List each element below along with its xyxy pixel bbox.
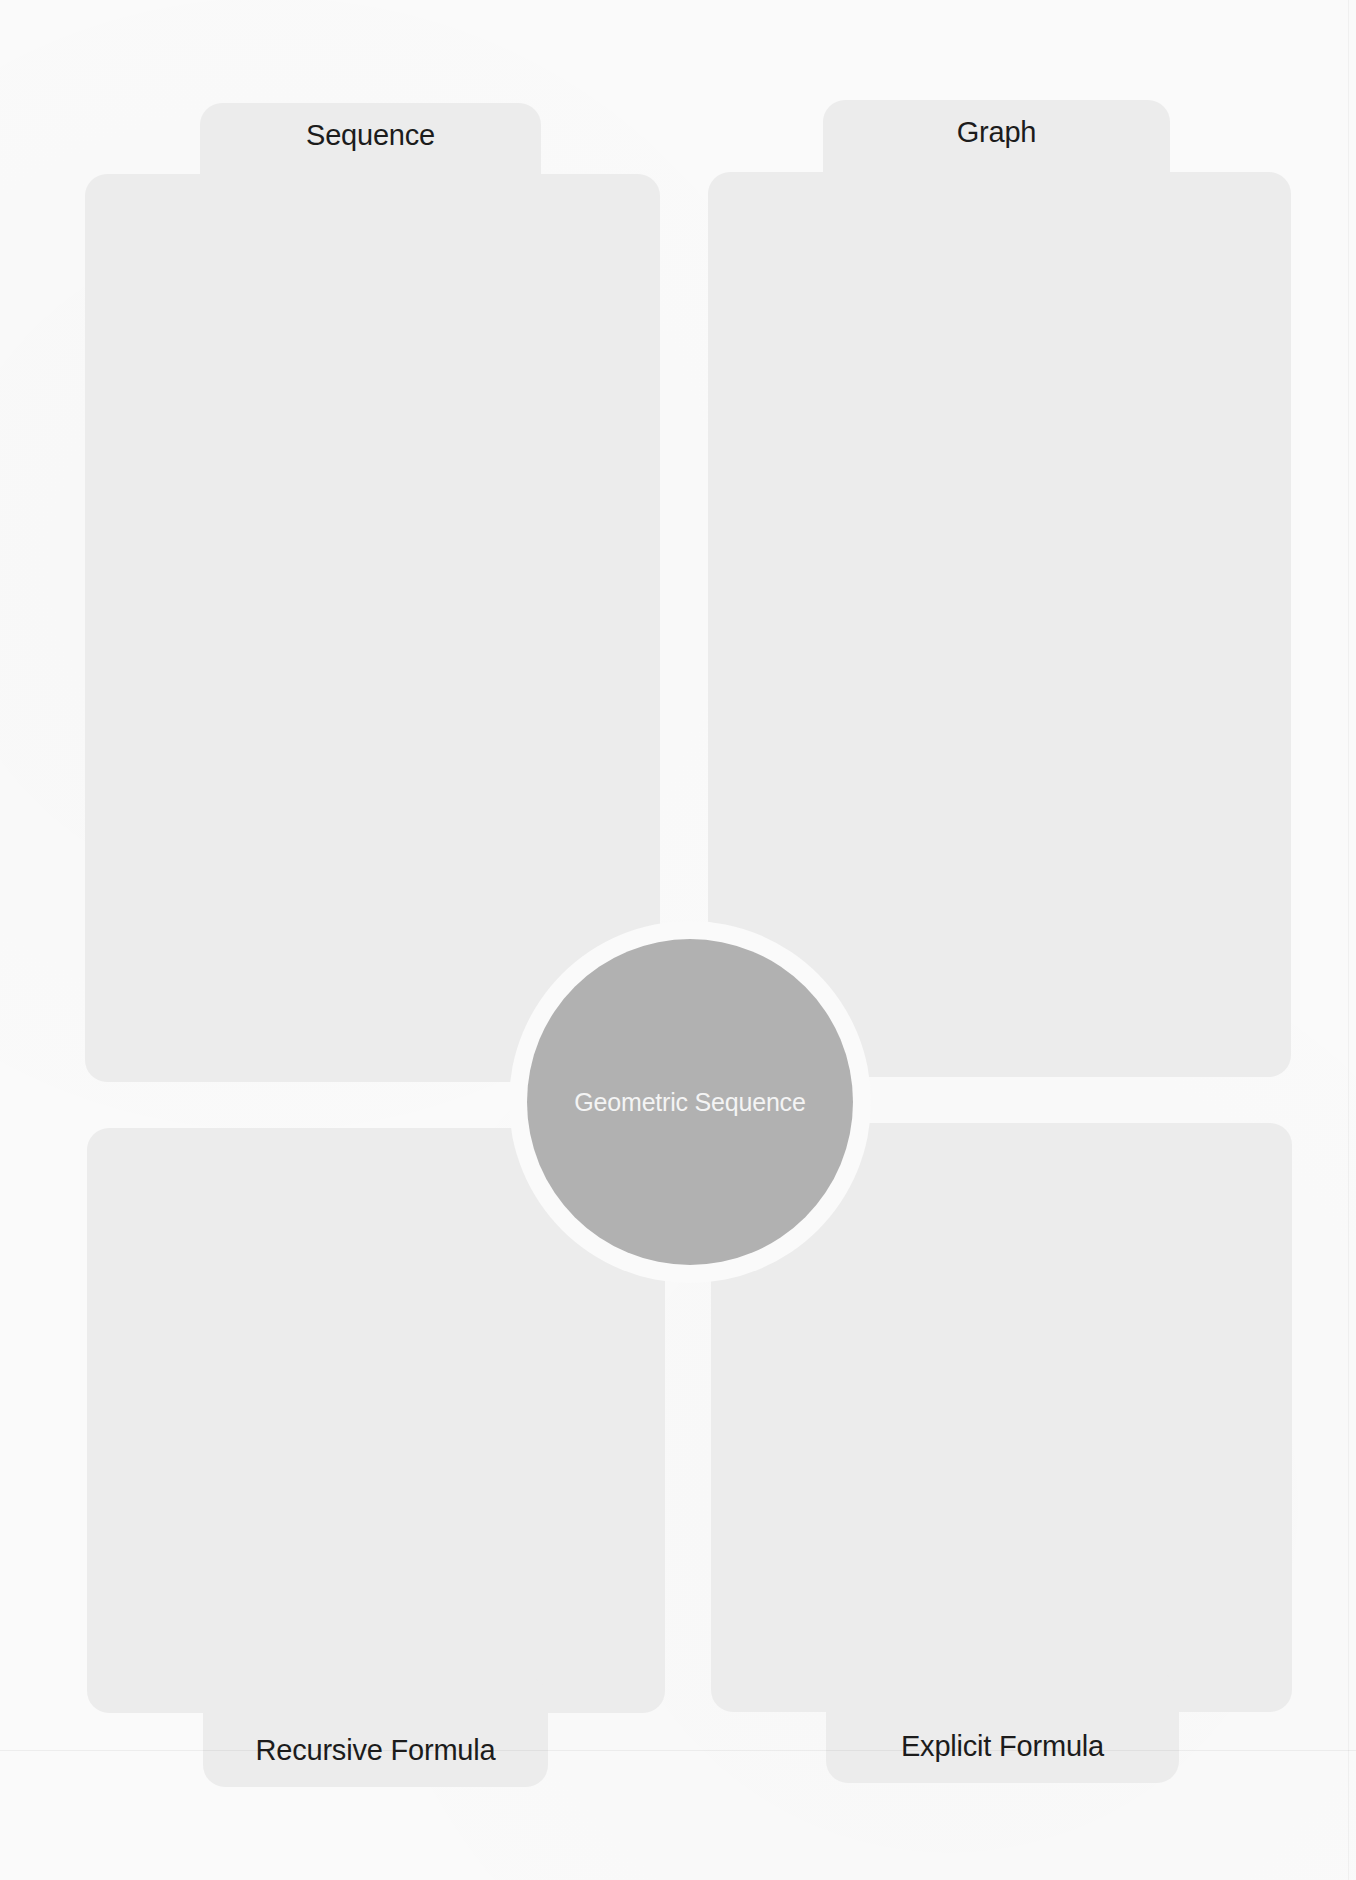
scan-artifact-line [1348,0,1349,1880]
panel-sequence[interactable] [85,174,660,1082]
center-label: Geometric Sequence [574,1088,805,1117]
panel-graph[interactable] [708,172,1291,1077]
quadrant-label-graph: Graph [957,118,1037,147]
worksheet-page: Sequence Graph Recursive Formula Explici… [0,0,1356,1880]
quadrant-label-explicit-formula: Explicit Formula [901,1732,1104,1761]
center-circle: Geometric Sequence [527,939,853,1265]
tab-explicit-formula: Explicit Formula [826,1673,1179,1783]
tab-recursive-formula: Recursive Formula [203,1677,548,1787]
scan-artifact-line [0,1750,1356,1751]
quadrant-label-sequence: Sequence [306,121,435,150]
